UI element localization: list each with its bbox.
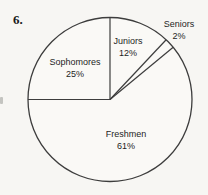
slice-label-seniors: Seniors 2%: [164, 19, 195, 42]
slice-label-freshmen: Freshmen 61%: [106, 129, 147, 152]
slice-label-sophomores: Sophomores 25%: [49, 57, 100, 80]
slice-percent: 2%: [164, 30, 195, 42]
slice-label-juniors: Juniors 12%: [113, 36, 142, 59]
slice-name: Juniors: [113, 36, 142, 48]
slice-percent: 25%: [49, 68, 100, 80]
slice-percent: 12%: [113, 47, 142, 59]
slice-name: Sophomores: [49, 57, 100, 69]
pie-chart: Juniors 12% Seniors 2% Freshmen 61% Soph…: [0, 0, 208, 195]
scanned-worksheet-figure: 6. Juniors 12% Seniors 2% Freshmen 61% S…: [0, 0, 208, 195]
scan-artifact: [0, 97, 3, 104]
slice-percent: 61%: [106, 140, 147, 152]
slice-name: Freshmen: [106, 129, 147, 141]
slice-name: Seniors: [164, 19, 195, 31]
